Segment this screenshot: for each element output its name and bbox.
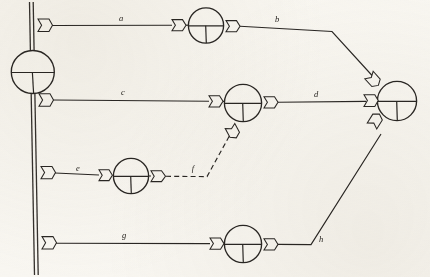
flag-connector-bus-a[interactable] [38, 19, 53, 31]
flag-connector-a-left[interactable] [172, 20, 186, 31]
branch-label-d: d [314, 89, 319, 99]
node-bus[interactable] [11, 51, 54, 94]
branch-label-f: f [192, 163, 196, 173]
branch-label-h: h [319, 234, 323, 244]
vertical-bus [30, 2, 39, 275]
branch-label-g: g [122, 230, 126, 240]
flag-connector-c-right[interactable] [264, 97, 278, 108]
wire-e [55, 173, 99, 175]
flag-connector-bus-e[interactable] [41, 166, 56, 178]
branch-label-a: a [119, 13, 123, 23]
flag-connector-g-right[interactable] [264, 239, 278, 250]
flag-connector-c-left[interactable] [209, 96, 223, 107]
flag-connectors [38, 19, 384, 250]
branch-wires [52, 25, 381, 244]
flag-connector-g-left[interactable] [210, 238, 224, 249]
wire-d [278, 101, 366, 102]
node-g[interactable] [224, 225, 261, 262]
node-c[interactable] [224, 84, 261, 121]
flag-connector-e-left[interactable] [99, 170, 112, 181]
schematic-canvas: a b c d e f g h [0, 0, 430, 277]
flag-connector-bus-c[interactable] [39, 94, 54, 106]
node-right[interactable] [377, 81, 416, 120]
branch-label-b: b [275, 14, 279, 24]
wire-h [278, 134, 381, 245]
branch-label-e: e [76, 163, 80, 173]
branch-label-c: c [121, 87, 125, 97]
flag-connector-c-bottom[interactable] [225, 123, 241, 140]
branch-labels: a b c d e f g h [76, 13, 323, 244]
wire-c [53, 100, 209, 101]
schematic-diagram: a b c d e f g h [0, 0, 430, 277]
wire-b [240, 26, 378, 82]
flag-connector-right-mid[interactable] [364, 95, 378, 107]
flag-connector-a-right[interactable] [226, 21, 240, 32]
wire-f [166, 133, 231, 177]
flag-connector-right-top[interactable] [365, 71, 383, 89]
flag-connector-bus-g[interactable] [42, 237, 57, 249]
node-a[interactable] [188, 8, 223, 43]
flag-connector-e-right[interactable] [151, 171, 166, 182]
node-e[interactable] [113, 158, 148, 193]
